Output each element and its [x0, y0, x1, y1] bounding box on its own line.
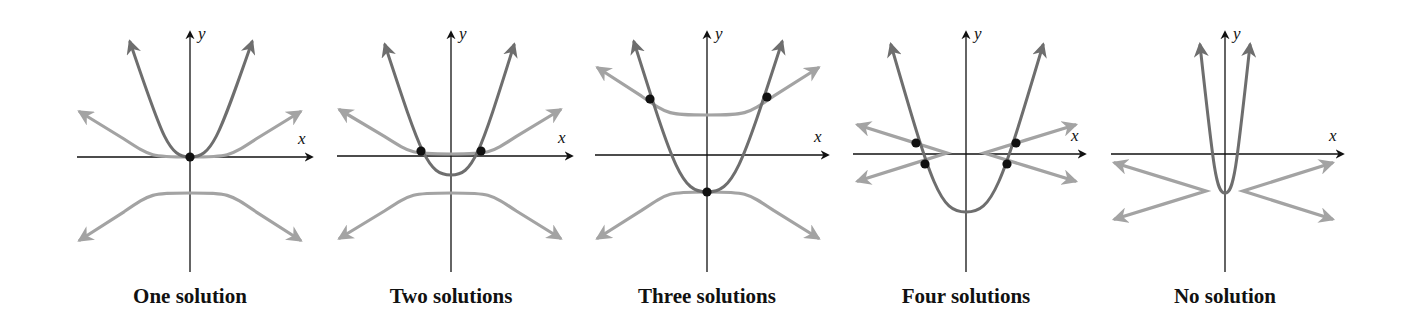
intersection-point: [920, 159, 929, 168]
intersection-point: [1002, 159, 1011, 168]
panel-caption: Three solutions: [638, 284, 776, 309]
hyperbola-curve: [340, 193, 560, 238]
intersection-point: [185, 152, 194, 161]
panel-3: [595, 32, 828, 272]
intersection-point: [645, 94, 654, 103]
intersection-point: [762, 92, 771, 101]
y-axis-label: y: [974, 24, 982, 44]
parabola-curve: [130, 42, 252, 157]
y-axis-label: y: [715, 24, 723, 44]
hyperbola-curve: [340, 110, 560, 154]
panel-1: [77, 32, 312, 272]
hyperbola-curve: [598, 68, 818, 115]
intersection-point: [911, 138, 920, 147]
figure-canvas: [0, 0, 1405, 329]
panel-4: [853, 32, 1085, 272]
intersection-point: [1011, 138, 1020, 147]
intersection-point: [416, 146, 425, 155]
x-axis-label: x: [814, 127, 822, 147]
y-axis-label: y: [459, 24, 467, 44]
intersection-point: [476, 146, 485, 155]
hyperbola-curve: [1243, 163, 1332, 219]
panel-caption: Two solutions: [390, 284, 513, 309]
hyperbola-curve: [858, 125, 947, 181]
y-axis-label: y: [198, 24, 206, 44]
panel-caption: Four solutions: [902, 284, 1031, 309]
panel-5: [1111, 32, 1343, 272]
parabola-curve: [634, 42, 782, 192]
x-axis-label: x: [558, 128, 566, 148]
panel-caption: No solution: [1174, 284, 1276, 309]
x-axis-label: x: [298, 129, 306, 149]
hyperbola-curve: [1115, 163, 1206, 219]
parabola-curve: [891, 45, 1043, 212]
y-axis-label: y: [1233, 24, 1241, 44]
hyperbola-curve: [598, 192, 818, 238]
hyperbola-curve: [984, 125, 1075, 181]
x-axis-label: x: [1071, 126, 1079, 146]
intersection-point: [702, 187, 711, 196]
panel-2: [337, 32, 572, 272]
panel-caption: One solution: [133, 284, 247, 309]
x-axis-label: x: [1329, 126, 1337, 146]
